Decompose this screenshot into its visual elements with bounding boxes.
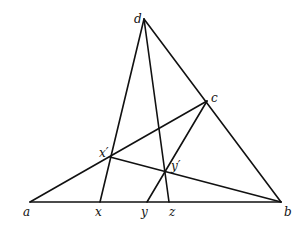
point-label-c: c bbox=[211, 91, 218, 105]
segment-d-x bbox=[100, 19, 144, 202]
diagram-canvas: abcdxyzx′y′ bbox=[0, 0, 308, 229]
point-label-x: x bbox=[95, 205, 102, 219]
line-segments bbox=[30, 19, 281, 202]
point-label-z: z bbox=[168, 205, 176, 219]
point-label-y: y bbox=[140, 205, 148, 219]
segment-a-c bbox=[30, 101, 207, 202]
segment-c-y bbox=[147, 101, 207, 202]
point-label-xp: x′ bbox=[99, 146, 109, 160]
segment-xp-b bbox=[110, 157, 281, 202]
triangle-construction-diagram: abcdxyzx′y′ bbox=[0, 0, 308, 229]
point-label-a: a bbox=[23, 205, 30, 219]
point-label-b: b bbox=[284, 205, 292, 219]
point-label-yp: y′ bbox=[170, 159, 181, 173]
point-label-d: d bbox=[134, 12, 142, 26]
